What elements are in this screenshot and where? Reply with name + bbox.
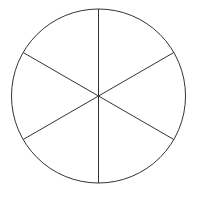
divided-circle-diagram bbox=[0, 0, 198, 198]
